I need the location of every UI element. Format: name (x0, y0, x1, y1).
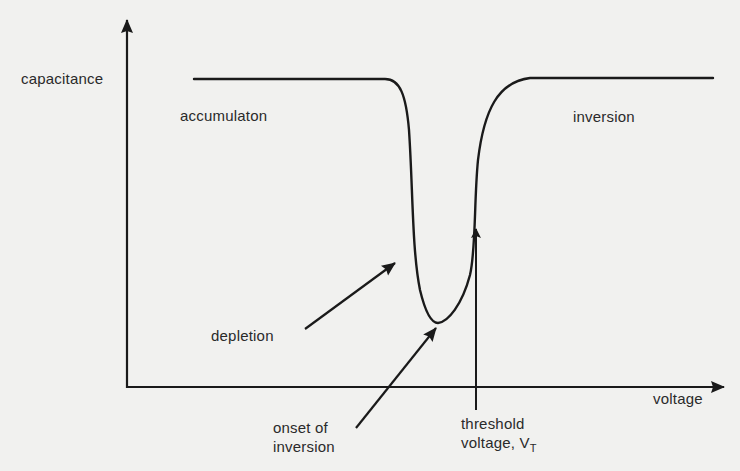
threshold-label-line1: threshold (461, 414, 537, 433)
accumulation-label: accumulaton (180, 106, 267, 125)
threshold-label: threshold voltage, VT (461, 414, 537, 458)
onset-label-line1: onset of (273, 418, 335, 437)
cv-diagram (0, 0, 740, 471)
threshold-label-text: voltage, V (461, 434, 530, 451)
depletion-arrow (305, 263, 395, 329)
y-axis-label: capacitance (21, 69, 103, 88)
inversion-label: inversion (573, 107, 635, 126)
threshold-subscript: T (530, 442, 537, 454)
threshold-label-line2: voltage, VT (461, 433, 537, 458)
onset-arrow (356, 328, 436, 428)
depletion-label: depletion (211, 326, 274, 345)
onset-label-line2: inversion (273, 437, 335, 456)
cv-curve (194, 78, 713, 323)
onset-label: onset of inversion (273, 418, 335, 456)
x-axis-label: voltage (653, 389, 703, 408)
